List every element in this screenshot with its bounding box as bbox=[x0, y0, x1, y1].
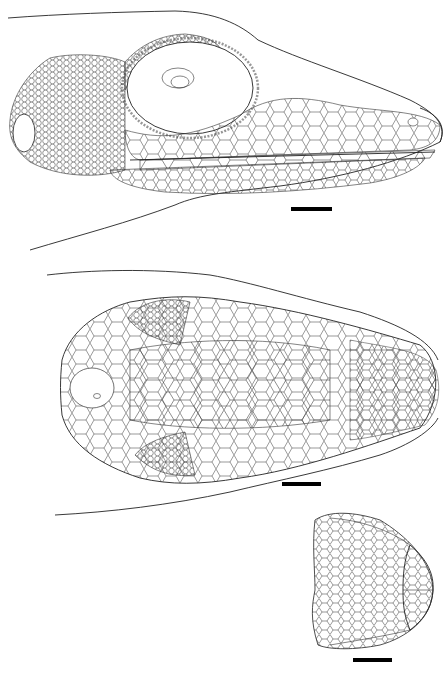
chin-shape bbox=[312, 513, 433, 649]
head-shields bbox=[130, 341, 330, 429]
ear-opening bbox=[13, 114, 35, 152]
ventral-view-panel bbox=[312, 513, 433, 662]
scale-bar-dorsal bbox=[282, 482, 321, 486]
scale-bar-lateral bbox=[291, 207, 332, 211]
lateral-view-panel bbox=[8, 11, 442, 250]
occipital-scale bbox=[70, 368, 114, 408]
nostril bbox=[408, 118, 418, 126]
dorsal-view-panel bbox=[47, 270, 439, 515]
scale-bar-ventral bbox=[353, 658, 392, 662]
scalation-figure bbox=[0, 0, 448, 673]
figure-canvas bbox=[0, 0, 448, 673]
